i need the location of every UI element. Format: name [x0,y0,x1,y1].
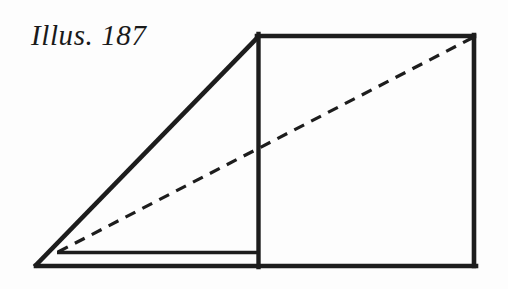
wedge-outline [36,35,476,266]
slant-edge-line [36,36,259,265]
illustration-caption: Illus. 187 [31,18,147,52]
illustration-figure: Illus. 187 [0,0,508,289]
dashed-diagonal-line [58,38,472,252]
